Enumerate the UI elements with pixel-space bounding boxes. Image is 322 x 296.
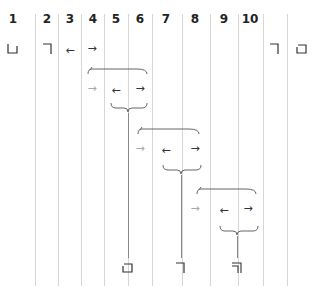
input-arrow-icon: → [135, 143, 144, 154]
column-divider [238, 14, 239, 286]
right-arrow-icon: → [243, 203, 252, 214]
column-divider [152, 14, 153, 286]
corner-symbol [42, 43, 54, 55]
column-divider [104, 14, 105, 286]
column-divider [35, 14, 36, 286]
column-header-6: 6 [136, 12, 144, 26]
column-divider [210, 14, 211, 286]
left-arrow-icon: ← [161, 145, 170, 156]
input-arrow-icon: → [190, 203, 199, 214]
left-arrow-icon: ← [219, 205, 228, 216]
bottom-brace [162, 164, 202, 176]
right-arrow-icon: → [87, 43, 96, 54]
column-header-1: 1 [9, 12, 17, 26]
double-corner-symbol [231, 262, 243, 274]
column-header-8: 8 [191, 12, 199, 26]
box-symbol [296, 43, 308, 55]
column-divider [263, 14, 264, 286]
right-arrow-icon: → [135, 83, 144, 94]
column-header-4: 4 [89, 12, 97, 26]
bottom-brace [110, 102, 148, 114]
input-arrow-icon: → [87, 83, 96, 94]
column-divider [81, 14, 82, 286]
corner-symbol [269, 43, 281, 55]
column-header-9: 9 [220, 12, 228, 26]
connector-line [128, 113, 129, 258]
column-header-2: 2 [43, 12, 51, 26]
box-symbol [7, 43, 19, 55]
left-arrow-icon: ← [65, 45, 74, 56]
column-header-10: 10 [242, 12, 259, 26]
column-header-7: 7 [162, 12, 170, 26]
right-arrow-icon: → [190, 143, 199, 154]
connector-line [237, 236, 238, 258]
column-header-3: 3 [66, 12, 74, 26]
column-divider [182, 14, 183, 286]
corner-symbol [175, 262, 187, 274]
column-divider [287, 14, 288, 286]
column-header-5: 5 [112, 12, 120, 26]
top-brace [137, 126, 201, 136]
column-divider [58, 14, 59, 286]
bottom-brace [219, 225, 259, 237]
top-brace [87, 66, 149, 76]
top-brace [196, 186, 258, 196]
left-arrow-icon: ← [111, 85, 120, 96]
box-symbol [122, 262, 134, 274]
connector-line [181, 175, 182, 258]
